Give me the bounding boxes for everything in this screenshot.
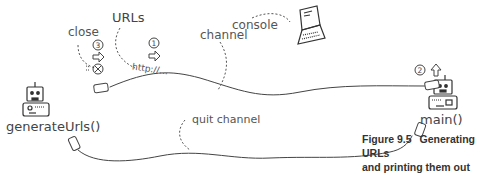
channel-wire: [110, 73, 425, 95]
console-label: console: [232, 18, 278, 32]
quit-channel-label: quit channel: [192, 113, 260, 126]
robot-icon: [429, 75, 457, 109]
step-1-label: 1: [152, 39, 157, 48]
up-arrow-icon: [431, 64, 441, 76]
plug-icon: [94, 83, 109, 93]
figure-number: Figure 9.5: [362, 133, 412, 145]
main-label: main(): [420, 112, 463, 127]
plug-icon: [68, 136, 81, 151]
quit-channel-pointer-arrow: [180, 120, 190, 150]
channel-pointer-arrow: [218, 42, 227, 90]
plug-icon: [424, 80, 439, 90]
laptop-icon: [298, 6, 325, 44]
step-2-label: 2: [418, 66, 423, 75]
robot-icon: [23, 82, 49, 116]
urls-label: URLs: [112, 10, 145, 25]
figure-caption: Figure 9.5Generating URLs and printing t…: [362, 132, 503, 174]
generate-urls-label: generateUrls(): [6, 119, 100, 134]
right-arrow-icon: [93, 52, 104, 62]
close-pointer-arrow: [78, 45, 95, 68]
right-arrow-icon: [149, 51, 160, 61]
step-3-label: 3: [96, 41, 101, 50]
close-label: close: [68, 25, 99, 39]
caption-line2: and printing them out: [362, 160, 503, 174]
